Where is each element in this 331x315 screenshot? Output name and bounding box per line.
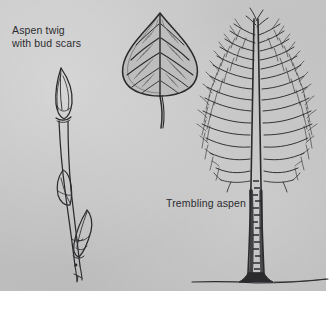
illustration-page: Aspen twig with bud scars Trembling aspe… (0, 0, 331, 315)
tree-crown-branches (202, 8, 312, 173)
aspen-twig-label: Aspen twig with bud scars (12, 24, 81, 49)
twig-bud-scar-ring-upper (56, 117, 71, 122)
tree-fine-twigs (197, 19, 317, 180)
leaf-petiole (160, 96, 164, 128)
aspen-twig-illustration (30, 60, 120, 285)
tree-lower-branches (214, 173, 300, 192)
trembling-aspen-label: Trembling aspen (166, 197, 246, 210)
trembling-aspen-tree-illustration (190, 5, 330, 290)
twig-terminal-bud (56, 68, 72, 119)
twig-lateral-bud-lower (74, 210, 92, 257)
